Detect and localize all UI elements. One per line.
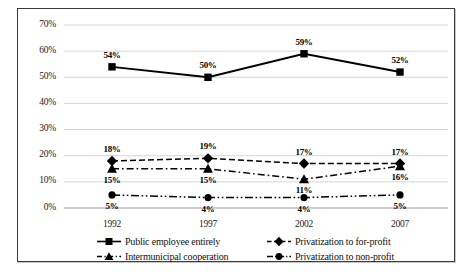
data-label-3-2: 4% <box>284 204 324 214</box>
data-label-1-1: 19% <box>188 141 228 151</box>
y-tick-label-0pct: 0% <box>20 202 56 212</box>
data-label-1-3: 17% <box>380 147 420 157</box>
data-label-2-0: 15% <box>92 175 132 185</box>
series-line-1 <box>112 158 400 163</box>
x-tick-label-1992: 1992 <box>84 219 140 229</box>
legend-key-triangle-dashdot <box>96 250 122 263</box>
series-line-2 <box>112 166 400 179</box>
chart-legend: Public employee entirely Intermunicipal … <box>18 235 456 265</box>
series-line-0 <box>112 54 400 78</box>
series-1-marker-2 <box>299 158 309 168</box>
y-tick-label-60pct: 60% <box>20 45 56 55</box>
series-0-marker-3 <box>396 68 403 75</box>
series-3-marker-3 <box>396 191 403 198</box>
data-label-1-2: 17% <box>284 147 324 157</box>
data-label-3-0: 5% <box>92 201 132 211</box>
data-label-0-1: 50% <box>188 60 228 70</box>
series-1-marker-1 <box>203 153 213 163</box>
series-3-marker-1 <box>204 194 211 201</box>
legend-label-privatization-to-non-profit: Privatization to non-profit <box>295 251 394 262</box>
x-tick-label-2002: 2002 <box>276 219 332 229</box>
x-tick-label-1997: 1997 <box>180 219 236 229</box>
legend-item-intermunicipal-cooperation: Intermunicipal cooperation <box>96 250 228 263</box>
y-tick-label-10pct: 10% <box>20 175 56 185</box>
y-tick-label-40pct: 40% <box>20 97 56 107</box>
series-3-marker-0 <box>108 191 115 198</box>
data-label-2-2: 11% <box>284 185 324 195</box>
legend-label-privatization-to-for-profit: Privatization to for-profit <box>295 236 390 247</box>
legend-item-public-employee-entirely: Public employee entirely <box>96 235 220 248</box>
series-0-marker-0 <box>108 63 115 70</box>
series-lines <box>112 54 400 198</box>
data-label-3-3: 5% <box>380 201 420 211</box>
y-tick-label-30pct: 30% <box>20 123 56 133</box>
data-label-2-1: 15% <box>188 175 228 185</box>
legend-item-privatization-to-non-profit: Privatization to non-profit <box>266 250 394 263</box>
series-0-marker-2 <box>300 50 307 57</box>
data-label-3-1: 4% <box>188 204 228 214</box>
y-tick-label-20pct: 20% <box>20 149 56 159</box>
series-line-3 <box>112 195 400 198</box>
data-label-1-0: 18% <box>92 144 132 154</box>
legend-key-diamond-dashed <box>266 235 292 248</box>
legend-label-public-employee-entirely: Public employee entirely <box>125 236 220 247</box>
legend-key-square-solid <box>96 235 122 248</box>
data-label-0-3: 52% <box>380 55 420 65</box>
data-label-0-2: 59% <box>284 37 324 47</box>
y-tick-label-50pct: 50% <box>20 71 56 81</box>
series-0-marker-1 <box>204 74 211 81</box>
legend-item-privatization-to-for-profit: Privatization to for-profit <box>266 235 390 248</box>
x-tick-label-2007: 2007 <box>372 219 428 229</box>
y-tick-label-70pct: 70% <box>20 19 56 29</box>
chart-figure: 0%10%20%30%40%50%60%70% 1992199720022007… <box>17 8 455 262</box>
data-label-2-3: 16% <box>380 172 420 182</box>
legend-label-intermunicipal-cooperation: Intermunicipal cooperation <box>125 251 228 262</box>
series-markers <box>107 50 405 201</box>
data-label-0-0: 54% <box>92 50 132 60</box>
legend-key-circle-dashdotdot <box>266 250 292 263</box>
